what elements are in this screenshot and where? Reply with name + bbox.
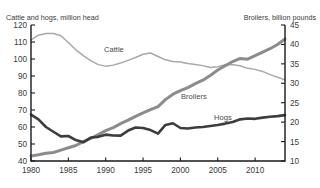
svg-text:40: 40 [18, 157, 28, 166]
svg-text:25: 25 [290, 99, 300, 108]
series-annotations: CattleBroilersHogs [104, 45, 232, 122]
series-line-hogs [31, 115, 285, 143]
left-axis-tick-labels: 405060708090100110120 [13, 21, 27, 166]
svg-text:10: 10 [290, 157, 300, 166]
svg-text:80: 80 [18, 89, 28, 98]
svg-text:70: 70 [18, 106, 28, 115]
svg-text:1990: 1990 [97, 166, 116, 175]
svg-text:90: 90 [18, 72, 28, 81]
svg-text:120: 120 [13, 21, 27, 30]
series-label-hogs: Hogs [214, 113, 232, 122]
series-label-cattle: Cattle [104, 45, 124, 54]
svg-text:1995: 1995 [134, 166, 153, 175]
svg-text:1980: 1980 [22, 166, 41, 175]
svg-text:60: 60 [18, 123, 28, 132]
svg-text:40: 40 [290, 40, 300, 49]
svg-text:2010: 2010 [246, 166, 265, 175]
svg-text:110: 110 [14, 38, 27, 47]
svg-text:2000: 2000 [171, 166, 190, 175]
x-axis-tick-labels: 1980198519901995200020052010 [22, 166, 265, 175]
svg-text:30: 30 [290, 79, 300, 88]
axis-frame [31, 25, 285, 161]
svg-text:1985: 1985 [59, 166, 78, 175]
right-axis-tick-labels: 1015202530354045 [290, 21, 300, 166]
svg-text:2005: 2005 [209, 166, 228, 175]
svg-text:20: 20 [290, 118, 300, 127]
svg-text:45: 45 [290, 21, 300, 30]
svg-text:15: 15 [290, 138, 300, 147]
axis-tick-marks [31, 25, 285, 161]
chart-container: Cattle and hogs, million head Broilers, … [0, 0, 320, 188]
data-series-group [31, 34, 285, 156]
plot-area: 405060708090100110120 1015202530354045 1… [0, 0, 320, 188]
svg-text:100: 100 [13, 55, 27, 64]
svg-text:35: 35 [290, 60, 300, 69]
series-line-cattle [31, 34, 285, 80]
series-label-broilers: Broilers [181, 92, 207, 101]
svg-text:50: 50 [18, 140, 28, 149]
